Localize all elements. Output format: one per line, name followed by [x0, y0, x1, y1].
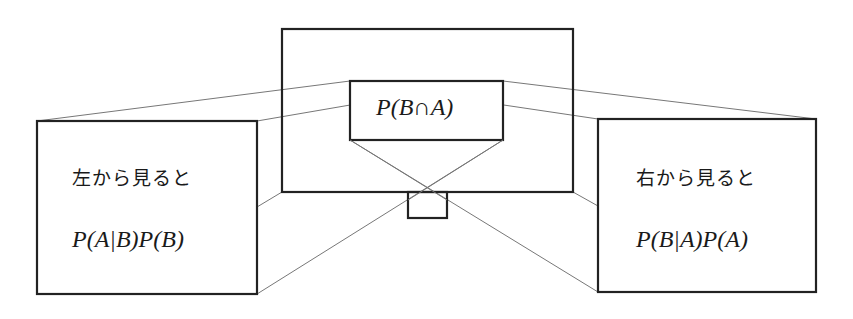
- bayes-perspective-diagram: [0, 0, 853, 319]
- left-view-caption: 左から見ると: [72, 163, 192, 190]
- right-view-box: [598, 119, 816, 292]
- center-formula: P(B∩A): [376, 94, 453, 121]
- left-view-formula: P(A|B)P(B): [72, 226, 184, 253]
- left-view-box: [37, 121, 257, 294]
- right-view-caption: 右から見ると: [636, 163, 756, 190]
- right-view-formula: P(B|A)P(A): [636, 226, 748, 253]
